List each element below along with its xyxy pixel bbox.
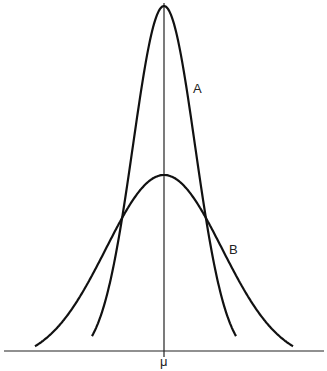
curve-a-label: A bbox=[193, 82, 202, 95]
curve-b-label: B bbox=[229, 243, 238, 256]
normal-curves-plot bbox=[0, 0, 327, 371]
mean-tick-label: μ bbox=[160, 355, 168, 368]
